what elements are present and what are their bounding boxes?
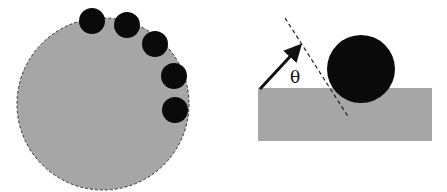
particle — [161, 63, 187, 89]
particle — [114, 12, 140, 38]
particle — [142, 31, 168, 57]
left-panel — [17, 8, 189, 190]
angle-label: θ — [290, 67, 300, 87]
particle — [79, 8, 105, 34]
contact-particle — [327, 35, 395, 103]
particle — [162, 97, 188, 123]
diagram-canvas: θ — [0, 0, 447, 192]
right-panel: θ — [258, 18, 432, 141]
